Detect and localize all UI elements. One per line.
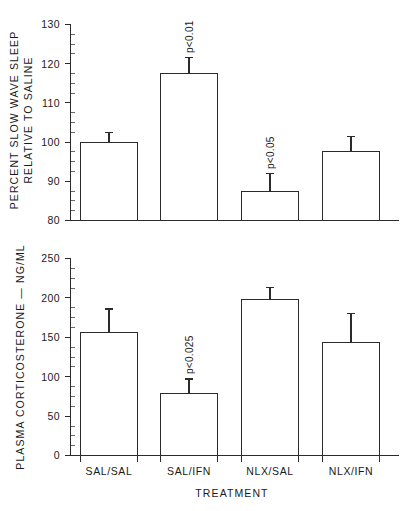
top-error-bars: [105, 58, 355, 191]
top-panel: PERCENT SLOW WAVE SLEEP RELATIVE TO SALI…: [8, 18, 399, 226]
xaxis-label-nlx-ifn: NLX/IFN: [329, 465, 373, 477]
bottom-bar-nlx-sal: [242, 300, 299, 456]
top-errorbar-sal-ifn: [185, 58, 193, 74]
bottom-ytick-250: 250: [41, 252, 60, 264]
bottom-ytick-100: 100: [41, 371, 60, 383]
top-yaxis-major-ticks: [65, 25, 71, 221]
xaxis-category-ticks: [81, 456, 380, 462]
top-yaxis-minor-ticks: [71, 34, 75, 210]
top-yaxis-label-line2: RELATIVE TO SALINE: [22, 56, 34, 183]
top-bar-nlx-ifn: [323, 152, 380, 221]
bottom-bar-nlx-ifn: [323, 343, 380, 456]
xaxis-category-labels: SAL/SAL SAL/IFN NLX/SAL NLX/IFN: [86, 465, 374, 477]
bottom-panel: PLASMA CORTICOSTERONE — NG/ML: [14, 244, 399, 499]
bottom-yaxis-tick-labels: 250 200 150 100 50 0: [41, 252, 60, 461]
bottom-bars: [81, 300, 380, 456]
top-errorbar-nlx-ifn: [347, 136, 355, 152]
top-pvalue-sal-ifn: p<0.01: [184, 20, 195, 53]
bottom-bar-sal-ifn: [161, 393, 218, 455]
bottom-errorbar-nlx-sal: [266, 288, 274, 300]
bottom-yaxis-major-ticks: [65, 259, 71, 456]
bottom-error-bars: [105, 288, 355, 394]
figure-container: PERCENT SLOW WAVE SLEEP RELATIVE TO SALI…: [0, 0, 408, 511]
top-errorbar-nlx-sal: [266, 174, 274, 192]
bottom-ytick-0: 0: [54, 449, 60, 461]
top-yaxis-tick-labels: 130 120 110 100 90 80: [41, 18, 60, 226]
bottom-errorbar-nlx-ifn: [347, 314, 355, 343]
xaxis-title: TREATMENT: [195, 487, 268, 499]
top-pvalue-nlx-sal: p<0.05: [265, 136, 276, 169]
top-yaxis-label-line1: PERCENT SLOW WAVE SLEEP: [8, 31, 20, 210]
bottom-ytick-150: 150: [41, 331, 60, 343]
top-errorbar-sal-sal: [105, 132, 113, 142]
top-bar-nlx-sal: [242, 191, 299, 220]
bottom-pvalue-sal-ifn: p<0.025: [184, 335, 195, 374]
top-ytick-80: 80: [48, 214, 60, 226]
top-ytick-100: 100: [41, 136, 60, 148]
top-ytick-110: 110: [42, 97, 60, 109]
bottom-errorbar-sal-sal: [105, 309, 113, 333]
xaxis-label-nlx-sal: NLX/SAL: [246, 465, 293, 477]
top-ytick-120: 120: [41, 58, 60, 70]
top-ytick-130: 130: [41, 18, 60, 30]
bottom-yaxis-minor-ticks: [71, 268, 75, 445]
top-ytick-90: 90: [48, 175, 60, 187]
bar-chart-figure: PERCENT SLOW WAVE SLEEP RELATIVE TO SALI…: [0, 0, 408, 511]
bottom-bar-sal-sal: [81, 333, 138, 456]
bottom-ytick-50: 50: [48, 410, 60, 422]
top-bar-sal-ifn: [161, 74, 218, 221]
xaxis-label-sal-ifn: SAL/IFN: [167, 465, 211, 477]
bottom-ytick-200: 200: [41, 292, 60, 304]
xaxis-label-sal-sal: SAL/SAL: [86, 465, 133, 477]
top-bars: [81, 74, 380, 221]
top-bar-sal-sal: [81, 142, 138, 220]
bottom-yaxis-label: PLASMA CORTICOSTERONE — NG/ML: [14, 244, 26, 469]
bottom-errorbar-sal-ifn: [185, 379, 193, 393]
